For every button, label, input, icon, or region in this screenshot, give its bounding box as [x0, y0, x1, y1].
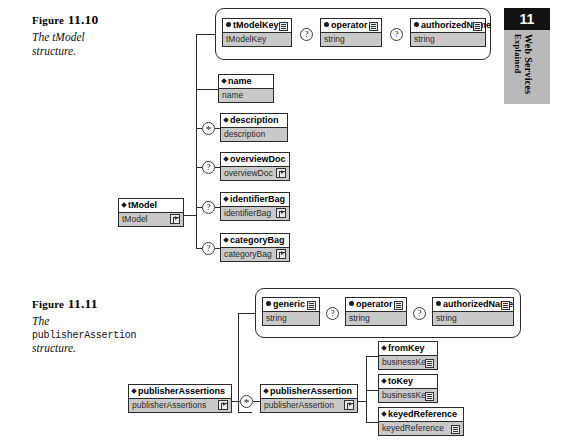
node-description-name: description: [221, 114, 287, 128]
lines-icon[interactable]: [451, 425, 460, 434]
expand-icon[interactable]: [276, 168, 286, 178]
chapter-title-vertical: Web Services Explained: [512, 34, 534, 95]
node-publisherassertions-name: publisherAssertions: [129, 385, 231, 399]
dot-marker-icon: [436, 301, 441, 306]
diamond-marker-icon: [223, 237, 229, 243]
node-overviewdoc-type: overviewDoc: [221, 167, 289, 180]
dot-marker-icon: [324, 22, 329, 27]
node-pa-operator[interactable]: operator string: [345, 297, 407, 326]
connector-pa-right-v: [366, 356, 367, 422]
expand-icon[interactable]: [170, 214, 180, 224]
occurrence-pa-authorizedname-optional: ?: [413, 307, 426, 320]
node-generic-name: generic: [263, 298, 319, 312]
occurrence-operator-optional: ?: [300, 28, 313, 41]
connector-pa-left-h: [238, 412, 252, 413]
node-identifierbag-type: identifierBag: [221, 207, 289, 220]
node-tmodel-name: tModel: [119, 199, 183, 213]
connector-pa-right-h: [358, 401, 366, 402]
lines-icon[interactable]: [473, 22, 482, 31]
node-keyedreference-type: keyedReference: [379, 422, 463, 435]
occurrence-pa-operator-optional: ?: [326, 307, 339, 320]
node-operator-name: operator: [321, 19, 381, 33]
node-publisherassertions-type: publisherAssertions: [129, 399, 231, 412]
node-tmodel[interactable]: tModel tModel: [118, 198, 184, 227]
lines-icon[interactable]: [501, 301, 510, 310]
occurrence-categorybag-optional: ?: [202, 242, 215, 255]
node-identifierbag[interactable]: identifierBag identifierBag: [220, 192, 290, 221]
diamond-marker-icon: [131, 388, 137, 394]
lines-icon[interactable]: [369, 22, 378, 31]
chapter-thumb-tab: 11 Web Services Explained: [504, 8, 550, 104]
node-generic[interactable]: generic string: [262, 297, 320, 326]
connector-fromkey: [366, 356, 378, 357]
occurrence-overviewdoc-optional: ?: [202, 161, 215, 174]
occurrence-authorizedname-optional: ?: [390, 28, 403, 41]
lines-icon[interactable]: [425, 359, 434, 368]
figure-11-11-diagram: publisherAssertions publisherAssertions …: [0, 0, 520, 448]
node-categorybag-type: categoryBag: [221, 248, 289, 261]
expand-icon[interactable]: [218, 400, 228, 410]
connector-tokey: [366, 390, 378, 391]
lines-icon[interactable]: [394, 301, 403, 310]
node-tokey-type: businessKey: [379, 389, 437, 402]
node-publisherassertion-name: publisherAssertion: [261, 385, 357, 399]
diamond-marker-icon: [221, 78, 227, 84]
lines-icon[interactable]: [425, 392, 434, 401]
node-fromkey-type: businessKey: [379, 356, 437, 369]
connector-pa-left-v: [238, 313, 239, 412]
node-pa-authorizedname-type: string: [433, 312, 513, 325]
node-generic-type: string: [263, 312, 319, 325]
diamond-marker-icon: [223, 156, 229, 162]
expand-icon[interactable]: [276, 249, 286, 259]
node-operator-type: string: [321, 33, 381, 46]
node-name[interactable]: name name: [218, 74, 274, 103]
chapter-title-strip: Web Services Explained: [504, 30, 550, 104]
node-name-type: name: [219, 89, 273, 102]
node-description-type: description: [221, 128, 287, 141]
node-operator[interactable]: operator string: [320, 18, 382, 47]
connector-pa-seq-h: [253, 401, 260, 402]
node-overviewdoc-name: overviewDoc: [221, 153, 289, 167]
node-tmodel-type: tModel: [119, 213, 183, 226]
chapter-number: 11: [504, 8, 550, 30]
diamond-marker-icon: [121, 202, 127, 208]
node-categorybag[interactable]: categoryBag categoryBag: [220, 233, 290, 262]
lines-icon[interactable]: [307, 301, 316, 310]
node-name-name: name: [219, 75, 273, 89]
diamond-marker-icon: [381, 378, 387, 384]
node-pa-authorizedname-name: authorizedName: [433, 298, 513, 312]
expand-icon[interactable]: [344, 400, 354, 410]
occurrence-identifierbag-optional: ?: [202, 201, 215, 214]
node-tmodelkey[interactable]: tModelKey tModelKey: [222, 18, 292, 47]
node-identifierbag-name: identifierBag: [221, 193, 289, 207]
diamond-marker-icon: [223, 117, 229, 123]
expand-icon[interactable]: [276, 208, 286, 218]
node-publisherassertion-type: publisherAssertion: [261, 399, 357, 412]
dot-marker-icon: [266, 301, 271, 306]
diamond-marker-icon: [223, 196, 229, 202]
dot-marker-icon: [349, 301, 354, 306]
node-pa-authorizedname[interactable]: authorizedName string: [432, 297, 514, 326]
node-publisherassertions[interactable]: publisherAssertions publisherAssertions: [128, 384, 232, 413]
occurrence-description-repeat: *: [202, 122, 215, 135]
node-tmodelkey-name: tModelKey: [223, 19, 291, 33]
node-pa-operator-type: string: [346, 312, 406, 325]
node-overviewdoc[interactable]: overviewDoc overviewDoc: [220, 152, 290, 181]
diamond-marker-icon: [381, 345, 387, 351]
node-fromkey[interactable]: fromKey businessKey: [378, 341, 438, 370]
node-pa-operator-name: operator: [346, 298, 406, 312]
node-authorizedname[interactable]: authorizedName string: [410, 18, 486, 47]
node-keyedreference[interactable]: keyedReference keyedReference: [378, 407, 464, 436]
node-tokey[interactable]: toKey businessKey: [378, 374, 438, 403]
dot-marker-icon: [226, 22, 231, 27]
node-publisherassertion[interactable]: publisherAssertion publisherAssertion: [260, 384, 358, 413]
diamond-marker-icon: [381, 411, 387, 417]
connector-keyedreference: [366, 422, 378, 423]
chapter-title-line1: Web Services: [523, 34, 534, 95]
dot-marker-icon: [414, 22, 419, 27]
node-tmodelkey-type: tModelKey: [223, 33, 291, 46]
node-authorizedname-name: authorizedName: [411, 19, 485, 33]
node-description[interactable]: description description: [220, 113, 288, 142]
node-authorizedname-type: string: [411, 33, 485, 46]
lines-icon[interactable]: [279, 22, 288, 31]
